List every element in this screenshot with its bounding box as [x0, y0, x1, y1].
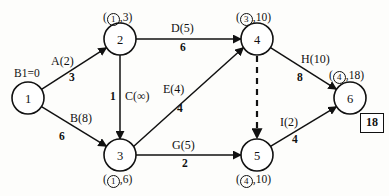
node-6-annotation: (4,18) [329, 70, 364, 84]
edge-e-name: E(4) [163, 83, 184, 95]
node-5-annot-rest: ,10) [253, 173, 271, 185]
edge-d-name: D(5) [171, 22, 194, 34]
edge-i-weight: 4 [292, 134, 298, 146]
node-3-annot-rest: ,6) [120, 173, 132, 185]
node-5-annotation: (4,10) [236, 174, 271, 188]
edge-g-weight: 2 [182, 158, 188, 170]
graph-svg: 1 2 3 4 5 6 [0, 0, 389, 196]
edge-3-to-4 [134, 48, 244, 147]
edge-g-name: G(5) [172, 139, 195, 151]
node-3-annot-circled: 1 [107, 175, 120, 188]
edge-c-weight: 1 [110, 91, 116, 103]
edge-a-weight: 3 [69, 72, 75, 84]
result-box: 18 [360, 113, 384, 133]
edge-d-weight: 6 [180, 42, 186, 54]
edge-b-weight: 6 [59, 131, 65, 143]
node-2-annot-circled: 1 [107, 13, 120, 26]
network-diagram-canvas: 1 2 3 4 5 6 B1=0 (1,3) (1,6) (3,10) (4,1… [0, 0, 389, 196]
node-1-id: 1 [25, 92, 31, 106]
node-4-annot-rest: ,10) [253, 11, 271, 23]
edge-h-name: H(10) [301, 53, 330, 65]
node-3-annotation: (1,6) [103, 174, 132, 188]
node-5-annot-circled: 4 [240, 175, 253, 188]
node-2-annot-rest: ,3) [120, 11, 132, 23]
node-1-annotation-text: B1=0 [14, 67, 40, 79]
node-4-id: 4 [254, 33, 261, 47]
edge-c-name: C(∞) [125, 90, 150, 102]
node-2-annotation: (1,3) [103, 12, 132, 26]
node-2-id: 2 [117, 33, 123, 47]
edge-e-weight: 4 [177, 103, 183, 115]
node-6-annot-circled: 4 [333, 71, 346, 84]
node-4-annotation: (3,10) [236, 12, 271, 26]
node-4-annot-circled: 3 [240, 13, 253, 26]
node-5-id: 5 [254, 149, 260, 163]
node-6-annot-rest: ,18) [346, 69, 364, 81]
edge-i-name: I(2) [280, 116, 298, 128]
edge-h-weight: 8 [297, 72, 303, 84]
node-1-annotation: B1=0 [14, 68, 40, 80]
edge-a-name: A(2) [51, 55, 74, 67]
node-3-id: 3 [117, 149, 123, 163]
edge-b-name: B(8) [70, 112, 92, 124]
node-6-id: 6 [347, 92, 353, 106]
